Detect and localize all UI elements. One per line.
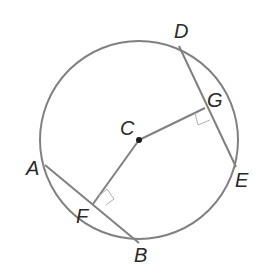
segment-cf	[93, 140, 139, 204]
label-f: F	[76, 205, 90, 227]
segment-cg	[139, 108, 205, 140]
label-g: G	[207, 89, 223, 111]
right-angle-marker-g	[195, 113, 210, 125]
label-e: E	[235, 169, 249, 191]
circle-diagram: D G C A E F B	[0, 0, 273, 277]
label-d: D	[174, 20, 188, 42]
center-point	[136, 137, 142, 143]
label-c: C	[120, 117, 135, 139]
label-b: B	[134, 244, 147, 266]
chord-ab	[45, 165, 139, 243]
label-a: A	[25, 157, 39, 179]
